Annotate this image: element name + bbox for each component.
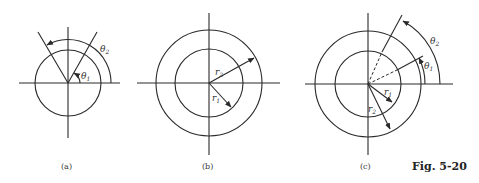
figure-caption: Fig. 5-20 — [412, 160, 467, 173]
arc-theta1 — [74, 73, 80, 83]
dashed-ray-theta2 — [368, 52, 382, 84]
arc-theta2 — [403, 21, 440, 84]
panel-b: r2 r1 (b) — [137, 13, 280, 171]
panel-a: θ2 θ1 (a) — [19, 27, 120, 171]
label-theta1: θ1 — [81, 71, 90, 82]
figure-canvas: θ2 θ1 (a) r2 r1 (b) θ2 θ1 r1 r2 (c) Fig.… — [0, 0, 479, 183]
label-theta1: θ1 — [424, 61, 433, 72]
label-r2: r2 — [368, 104, 376, 115]
label-r2: r2 — [215, 67, 223, 78]
panel-c: θ2 θ1 r1 r2 (c) — [305, 13, 453, 171]
label-r1: r1 — [212, 93, 220, 104]
panel-label-a: (a) — [61, 162, 72, 171]
label-r1: r1 — [384, 87, 392, 98]
panel-label-c: (c) — [360, 162, 371, 171]
label-theta2: θ2 — [430, 36, 439, 47]
dashed-ray-theta1 — [368, 70, 397, 84]
label-theta2: θ2 — [100, 44, 109, 55]
panel-label-b: (b) — [202, 162, 213, 171]
